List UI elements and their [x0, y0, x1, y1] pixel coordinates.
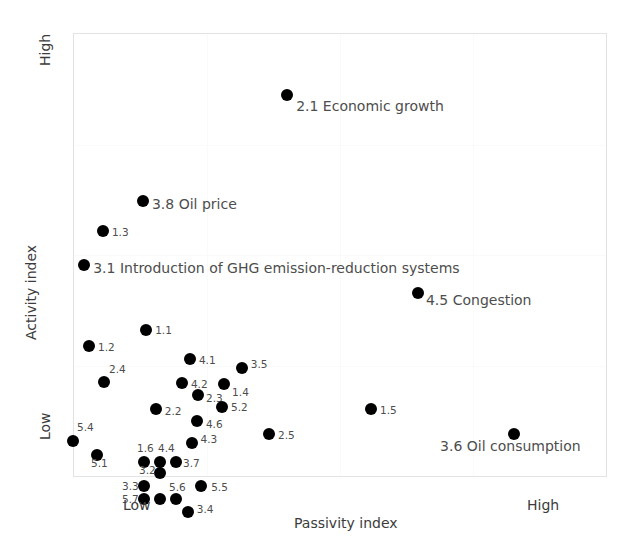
- data-point[interactable]: [83, 340, 95, 352]
- y-axis-tick-high: High: [38, 34, 52, 66]
- x-axis-tick-high: High: [527, 498, 559, 512]
- gridline-horizontal: [74, 366, 606, 367]
- gridline-horizontal: [74, 145, 606, 146]
- data-point-label: 2.5: [278, 430, 295, 441]
- data-point-label: 2.4: [109, 364, 126, 375]
- data-point-label: 1.2: [98, 342, 115, 353]
- data-point-label: 4.5 Congestion: [426, 293, 532, 307]
- scatter-chart: 2.1 Economic growth3.8 Oil price1.33.1 I…: [0, 0, 639, 558]
- data-point-label: 3.8 Oil price: [152, 197, 237, 211]
- data-point[interactable]: [154, 493, 166, 505]
- data-point-label: 1.5: [380, 405, 397, 416]
- y-axis-tick-low: Low: [38, 412, 52, 440]
- data-point-label: 4.3: [201, 434, 218, 445]
- data-point-label: 4.4: [158, 443, 175, 454]
- data-point-label: 5.2: [231, 402, 248, 413]
- data-point-label: 1.4: [232, 387, 249, 398]
- data-point[interactable]: [154, 467, 166, 479]
- data-point-label: 5.4: [77, 422, 94, 433]
- data-point-label: 5.6: [169, 482, 186, 493]
- data-point[interactable]: [182, 506, 194, 518]
- data-point[interactable]: [170, 456, 182, 468]
- data-point[interactable]: [170, 493, 182, 505]
- data-point[interactable]: [186, 437, 198, 449]
- data-point[interactable]: [191, 415, 203, 427]
- data-point[interactable]: [150, 403, 162, 415]
- data-point-label: 5.1: [91, 458, 108, 469]
- data-point[interactable]: [218, 378, 230, 390]
- data-point[interactable]: [184, 353, 196, 365]
- data-point[interactable]: [97, 225, 109, 237]
- data-point[interactable]: [236, 362, 248, 374]
- data-point[interactable]: [67, 435, 79, 447]
- data-point-label: 1.6: [137, 443, 154, 454]
- data-point[interactable]: [195, 480, 207, 492]
- data-point-label: 3.5: [251, 359, 268, 370]
- data-point-label: 2.2: [165, 406, 182, 417]
- data-point-label: 5.5: [211, 482, 228, 493]
- y-axis-title: Activity index: [24, 245, 38, 340]
- gridline-horizontal: [74, 255, 606, 256]
- data-point[interactable]: [176, 377, 188, 389]
- data-point-label: 4.2: [191, 379, 208, 390]
- data-point-label: 3.2: [139, 465, 156, 476]
- data-point[interactable]: [365, 403, 377, 415]
- data-point[interactable]: [192, 389, 204, 401]
- data-point-label: 3.4: [197, 504, 214, 515]
- data-point-label: 4.1: [199, 355, 216, 366]
- x-axis-tick-low: Low: [123, 498, 151, 512]
- data-point-label: 3.7: [183, 458, 200, 469]
- data-point[interactable]: [98, 376, 110, 388]
- data-point-label: 2.1 Economic growth: [296, 99, 444, 113]
- data-point-label: 3.1 Introduction of GHG emission-reducti…: [93, 261, 459, 275]
- data-point[interactable]: [216, 401, 228, 413]
- x-axis-title: Passivity index: [294, 516, 398, 530]
- data-point-label: 3.6 Oil consumption: [440, 439, 581, 453]
- data-point-label: 3.3: [122, 481, 139, 492]
- data-point-label: 1.1: [155, 325, 172, 336]
- data-point-label: 4.6: [206, 419, 223, 430]
- data-point[interactable]: [137, 195, 149, 207]
- data-point-label: 1.3: [112, 227, 129, 238]
- data-point[interactable]: [138, 480, 150, 492]
